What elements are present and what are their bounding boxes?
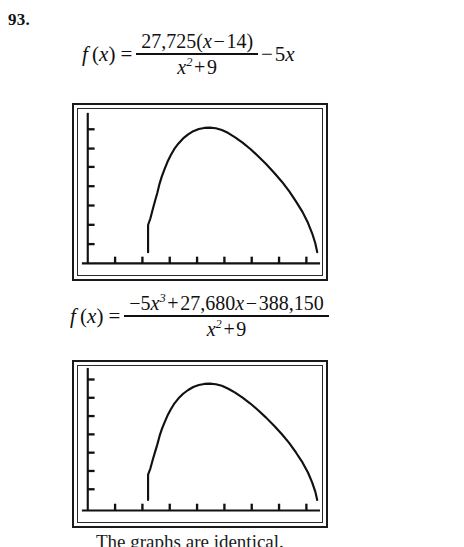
- function-curve: [148, 128, 317, 253]
- calc-screen-1-inner: [77, 108, 323, 276]
- formula-top: f (x) = 27,725(x − 14) x2 + 9 − 5x: [82, 30, 295, 78]
- formula-bottom-equals: =: [106, 304, 124, 329]
- problem-number: 93.: [8, 10, 30, 30]
- formula-top-fraction: 27,725(x − 14) x2 + 9: [136, 30, 258, 78]
- formula-top-equals: =: [118, 42, 136, 67]
- formula-top-trailing-term: − 5x: [258, 42, 294, 67]
- formula-top-lhs: f (x): [82, 42, 118, 67]
- formula-bottom-denominator: x2 + 9: [202, 317, 252, 340]
- graph-plot-2: [78, 366, 322, 522]
- graph-plot-1: [78, 109, 322, 275]
- graphing-calculator-screen-1: [72, 103, 328, 281]
- formula-top-denominator: x2 + 9: [172, 55, 222, 78]
- formula-bottom-fraction: −5x3 + 27,680x − 388,150 x2 + 9: [124, 292, 329, 340]
- formula-top-numerator: 27,725(x − 14): [136, 30, 258, 53]
- graphing-calculator-screen-2: [72, 360, 328, 528]
- formula-bottom-lhs: f (x): [70, 304, 106, 329]
- calc-screen-2-inner: [77, 365, 323, 523]
- formula-bottom: f (x) = −5x3 + 27,680x − 388,150 x2 + 9: [70, 292, 329, 340]
- formula-bottom-numerator: −5x3 + 27,680x − 388,150: [124, 292, 329, 315]
- function-curve: [148, 384, 317, 500]
- caption-text: The graphs are identical.: [96, 531, 284, 547]
